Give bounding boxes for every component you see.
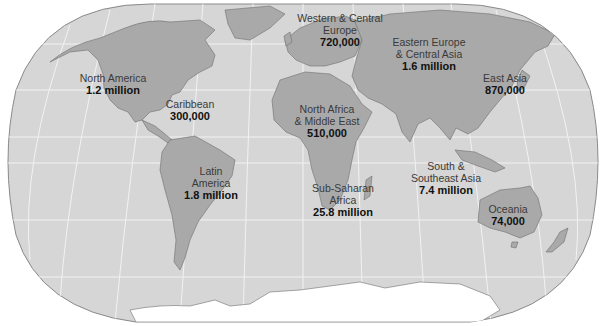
label-north-america: North America 1.2 million [80, 72, 147, 96]
region-name: North America [80, 72, 147, 84]
region-name: Oceania [488, 203, 527, 215]
region-name: Sub-Saharan [312, 182, 374, 194]
region-name: Latin [184, 165, 238, 177]
region-name: & Middle East [295, 115, 360, 127]
label-east-asia: East Asia 870,000 [483, 72, 527, 96]
label-oceania: Oceania 74,000 [488, 203, 527, 227]
world-map [0, 0, 606, 326]
region-value: 300,000 [166, 110, 214, 122]
region-value: 74,000 [488, 215, 527, 227]
region-name: & Central Asia [393, 48, 466, 60]
region-name: South & [411, 160, 481, 172]
region-value: 25.8 million [312, 206, 374, 218]
region-name: Eastern Europe [393, 36, 466, 48]
region-value: 1.8 million [184, 189, 238, 201]
region-name: Western & Central [297, 12, 383, 24]
label-south-southeast-asia: South & Southeast Asia 7.4 million [411, 160, 481, 196]
label-eastern-europe-central-asia: Eastern Europe & Central Asia 1.6 millio… [393, 36, 466, 72]
label-latin-america: Latin America 1.8 million [184, 165, 238, 201]
label-north-africa-middle-east: North Africa & Middle East 510,000 [295, 103, 360, 139]
region-value: 1.6 million [393, 60, 466, 72]
region-name: Southeast Asia [411, 172, 481, 184]
label-sub-saharan-africa: Sub-Saharan Africa 25.8 million [312, 182, 374, 218]
label-caribbean: Caribbean 300,000 [166, 98, 214, 122]
region-value: 1.2 million [80, 84, 147, 96]
region-name: Africa [312, 194, 374, 206]
label-western-central-europe: Western & Central Europe 720,000 [297, 12, 383, 48]
region-name: Europe [297, 24, 383, 36]
region-value: 7.4 million [411, 184, 481, 196]
region-value: 510,000 [295, 127, 360, 139]
region-name: East Asia [483, 72, 527, 84]
region-name: America [184, 177, 238, 189]
region-name: Caribbean [166, 98, 214, 110]
region-value: 870,000 [483, 84, 527, 96]
region-value: 720,000 [297, 36, 383, 48]
region-name: North Africa [295, 103, 360, 115]
